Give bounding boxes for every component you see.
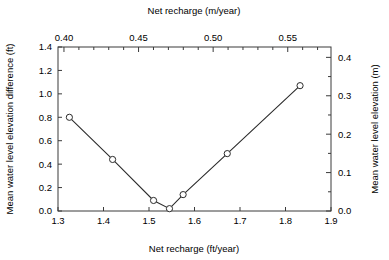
top-tick-label: 0.50 [204, 32, 223, 43]
data-point-marker [224, 151, 230, 157]
x-tick-label: 1.5 [142, 215, 155, 226]
line-chart: 1.31.41.51.61.71.81.9 0.00.20.40.60.81.0… [0, 0, 389, 260]
y-tick-label: 1.2 [39, 65, 52, 76]
data-point-marker [110, 156, 116, 162]
top-axis-title: Net recharge (m/year) [148, 5, 241, 16]
x-tick-label: 1.8 [279, 215, 292, 226]
y-tick-label: 0.8 [39, 112, 52, 123]
right-tick-label: 0.1 [338, 167, 351, 178]
data-point-marker [150, 197, 156, 203]
x-axis-title: Net recharge (ft/year) [149, 243, 239, 254]
top-tick-label: 0.45 [129, 32, 148, 43]
x-tick-label: 1.9 [324, 215, 337, 226]
x-tick-label: 1.7 [233, 215, 246, 226]
y-tick-label: 0.2 [39, 182, 52, 193]
right-tick-label: 0.2 [338, 129, 351, 140]
top-tick-label: 0.55 [278, 32, 297, 43]
data-point-marker [166, 206, 172, 212]
data-point-marker [66, 114, 72, 120]
right-tick-label: 0.3 [338, 90, 351, 101]
x-tick-label: 1.3 [51, 215, 64, 226]
y-tick-label: 1.4 [39, 41, 52, 52]
right-tick-label: 0.0 [338, 205, 351, 216]
data-point-marker [297, 83, 303, 89]
chart-figure: 1.31.41.51.61.71.81.9 0.00.20.40.60.81.0… [0, 0, 389, 260]
y-tick-label: 0.6 [39, 135, 52, 146]
right-tick-label: 0.4 [338, 52, 351, 63]
top-tick-label: 0.40 [55, 32, 74, 43]
data-point-marker [180, 192, 186, 198]
y-tick-label: 0.4 [39, 159, 52, 170]
y-axis-title: Mean water level elevation difference (f… [4, 44, 15, 215]
x-tick-label: 1.4 [97, 215, 110, 226]
x-tick-label: 1.6 [188, 215, 201, 226]
y-tick-label: 0.0 [39, 205, 52, 216]
y-tick-label: 1.0 [39, 88, 52, 99]
right-axis-title: Mean water level elevation (m) [369, 64, 380, 193]
